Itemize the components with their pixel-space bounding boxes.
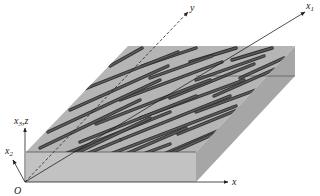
axis-x2-label: x2 [4, 145, 13, 158]
axis-x2-line [13, 160, 25, 182]
front-face [26, 152, 196, 182]
composite-block-diagram: xx3,zx2x1yO [0, 0, 320, 196]
axis-x1-label: x1 [305, 0, 314, 13]
origin-label: O [14, 185, 21, 196]
axis-x3z-label: x3,z [13, 115, 28, 128]
axis-y-label: y [189, 2, 195, 13]
axis-x-label: x [231, 176, 237, 187]
